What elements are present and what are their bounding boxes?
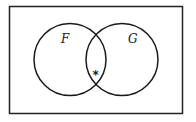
set-f-label: F xyxy=(60,32,70,46)
venn-diagram: F G * xyxy=(0,0,196,122)
set-g-label: G xyxy=(128,32,138,46)
set-f-circle xyxy=(34,24,106,96)
intersection-asterisk-marker: * xyxy=(93,68,100,82)
universe-rectangle xyxy=(10,7,183,114)
set-g-circle xyxy=(86,24,158,96)
